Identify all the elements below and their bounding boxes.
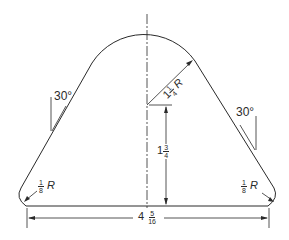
height-num: 3 (163, 144, 169, 152)
height-fraction: 34 (163, 144, 169, 159)
left-corner-radius-num: 1 (38, 179, 44, 187)
width-arrow-right (261, 216, 268, 220)
drawing-canvas (0, 0, 289, 240)
base-width-whole: 4 (138, 210, 144, 222)
height-den: 4 (163, 152, 169, 159)
height-label: 134 (157, 144, 169, 159)
right-corner-radius-fraction: 18 (241, 179, 247, 194)
base-width-fraction: 516 (147, 210, 157, 225)
right-corner-radius-label: 18 R (241, 179, 258, 194)
left-corner-radius-den: 8 (38, 187, 44, 194)
base-width-label: 4 516 (138, 210, 157, 225)
left-corner-radius-fraction: 18 (38, 179, 44, 194)
left-angle-label: 30° (54, 90, 72, 102)
right-corner-radius-den: 8 (241, 187, 247, 194)
base-width-num: 5 (149, 210, 155, 218)
width-arrow-left (28, 216, 35, 220)
left-corner-radius-arrowhead (24, 196, 30, 202)
right-angle-label: 30° (236, 106, 254, 118)
height-arrow-top (164, 106, 168, 113)
top-radius-arrowhead (186, 60, 193, 66)
left-corner-radius-suffix: R (47, 179, 55, 191)
left-corner-radius-label: 18 R (38, 179, 55, 194)
height-arrow-bottom (164, 198, 168, 205)
base-width-den: 16 (147, 218, 157, 225)
right-corner-radius-num: 1 (241, 179, 247, 187)
left-angle-slant (52, 106, 66, 131)
right-corner-radius-suffix: R (250, 179, 258, 191)
